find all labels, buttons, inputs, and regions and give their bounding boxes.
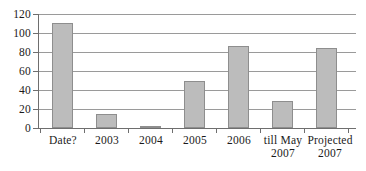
x-tick-mark [260,129,261,133]
x-axis-line [33,128,356,129]
bar-2005 [184,81,205,129]
y-axis-tick-label: 120 [13,8,31,20]
y-axis-tick-label: 20 [19,103,31,115]
bar-chart: 120 100 80 60 40 20 0 Date? 2003 2004 20… [0,0,366,171]
bar-projected-2007 [316,48,337,128]
gridline-100 [38,33,356,34]
y-axis-tick-label: 0 [25,122,31,134]
y-axis-labels: 120 100 80 60 40 20 0 [0,0,31,171]
gridline-80 [38,52,356,53]
bar-2004 [140,126,161,128]
x-axis-label-projected-2007: Projected 2007 [299,134,361,160]
x-tick-mark [40,129,41,133]
y-axis-tick-label: 60 [19,65,31,77]
gridline-120 [38,14,356,15]
x-tick-mark [216,129,217,133]
x-tick-mark [172,129,173,133]
x-tick-mark [348,129,349,133]
bar-date-unknown [52,23,73,128]
gridline-60 [38,71,356,72]
y-axis-tick-label: 80 [19,46,31,58]
x-tick-mark [128,129,129,133]
y-axis-tick-label: 40 [19,84,31,96]
bar-2006 [228,46,249,128]
x-tick-mark [84,129,85,133]
y-axis-tick-label: 100 [13,27,31,39]
bar-2003 [96,114,117,128]
x-tick-mark [304,129,305,133]
y-axis-line [38,14,39,129]
bar-till-may-2007 [272,101,293,129]
